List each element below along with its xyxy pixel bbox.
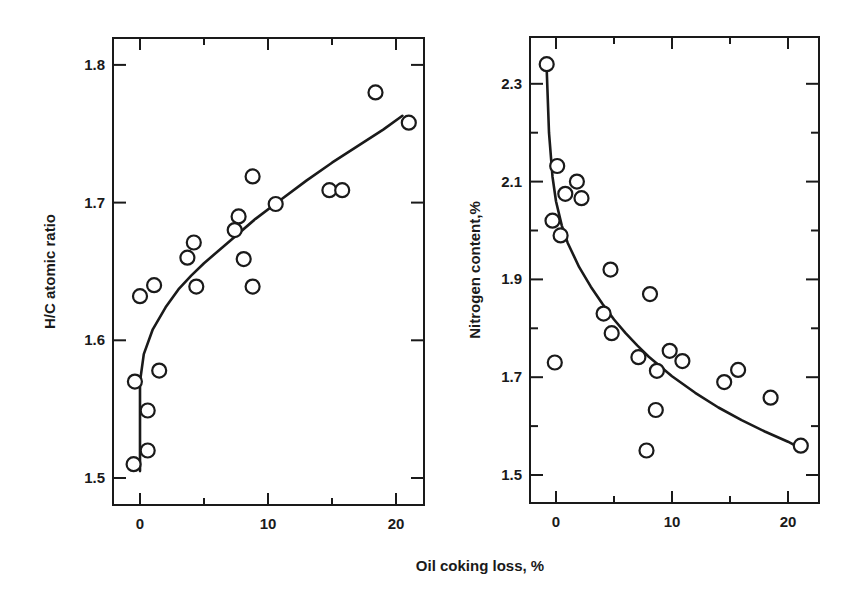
data-point bbox=[269, 197, 283, 211]
x-tick-label: 0 bbox=[552, 513, 560, 530]
figure: 010201.51.61.71.8H/C atomic ratio 010201… bbox=[0, 0, 864, 600]
data-point bbox=[147, 278, 161, 292]
data-point bbox=[640, 444, 654, 458]
data-point bbox=[228, 223, 242, 237]
y-axis-label: Nitrogen content,% bbox=[466, 201, 483, 339]
y-tick-label: 1.9 bbox=[501, 270, 522, 287]
panel-hc-ratio: 010201.51.61.71.8H/C atomic ratio bbox=[41, 38, 424, 532]
data-point bbox=[794, 439, 808, 453]
data-point bbox=[133, 289, 147, 303]
data-point bbox=[546, 214, 560, 228]
data-point bbox=[631, 350, 645, 364]
data-point bbox=[128, 375, 142, 389]
data-point bbox=[650, 364, 664, 378]
data-point bbox=[597, 307, 611, 321]
y-tick-label: 1.8 bbox=[84, 56, 105, 73]
data-point bbox=[558, 187, 572, 201]
x-axis-label: Oil coking loss, % bbox=[416, 557, 544, 574]
data-point bbox=[554, 228, 568, 242]
x-tick-label: 20 bbox=[388, 515, 405, 532]
data-point bbox=[335, 183, 349, 197]
x-tick-label: 10 bbox=[260, 515, 277, 532]
panel-nitrogen: 010201.51.71.92.12.3Nitrogen content,% bbox=[466, 37, 819, 530]
data-point bbox=[575, 191, 589, 205]
data-point bbox=[237, 252, 251, 266]
data-point bbox=[141, 404, 155, 418]
data-point bbox=[764, 391, 778, 405]
data-point bbox=[663, 344, 677, 358]
data-point bbox=[605, 326, 619, 340]
y-tick-label: 1.6 bbox=[84, 331, 105, 348]
data-point bbox=[141, 444, 155, 458]
plot-frame bbox=[530, 37, 819, 503]
data-point bbox=[127, 457, 141, 471]
data-point bbox=[246, 169, 260, 183]
data-point bbox=[649, 403, 663, 417]
data-point bbox=[570, 175, 584, 189]
data-point bbox=[604, 263, 618, 277]
data-point bbox=[540, 57, 554, 71]
data-point bbox=[643, 287, 657, 301]
y-tick-label: 1.5 bbox=[84, 469, 105, 486]
x-tick-label: 0 bbox=[136, 515, 144, 532]
x-tick-label: 10 bbox=[664, 513, 681, 530]
data-point bbox=[550, 159, 564, 173]
y-tick-label: 1.5 bbox=[501, 466, 522, 483]
y-tick-label: 2.3 bbox=[501, 75, 522, 92]
data-point bbox=[152, 364, 166, 378]
y-tick-label: 1.7 bbox=[501, 368, 522, 385]
data-point bbox=[232, 209, 246, 223]
data-point bbox=[402, 116, 416, 130]
y-tick-label: 2.1 bbox=[501, 173, 522, 190]
data-point bbox=[180, 251, 194, 265]
data-point bbox=[731, 363, 745, 377]
y-tick-label: 1.7 bbox=[84, 194, 105, 211]
fit-curve bbox=[547, 69, 798, 447]
data-point bbox=[548, 356, 562, 370]
data-point bbox=[369, 85, 383, 99]
y-axis-label: H/C atomic ratio bbox=[41, 214, 58, 329]
chart-canvas: 010201.51.61.71.8H/C atomic ratio 010201… bbox=[0, 0, 864, 600]
data-point bbox=[187, 236, 201, 250]
plot-frame bbox=[113, 38, 424, 505]
data-point bbox=[189, 280, 203, 294]
x-tick-label: 20 bbox=[780, 513, 797, 530]
data-point bbox=[675, 354, 689, 368]
data-point bbox=[246, 280, 260, 294]
data-point bbox=[717, 375, 731, 389]
fit-curve bbox=[140, 116, 402, 471]
